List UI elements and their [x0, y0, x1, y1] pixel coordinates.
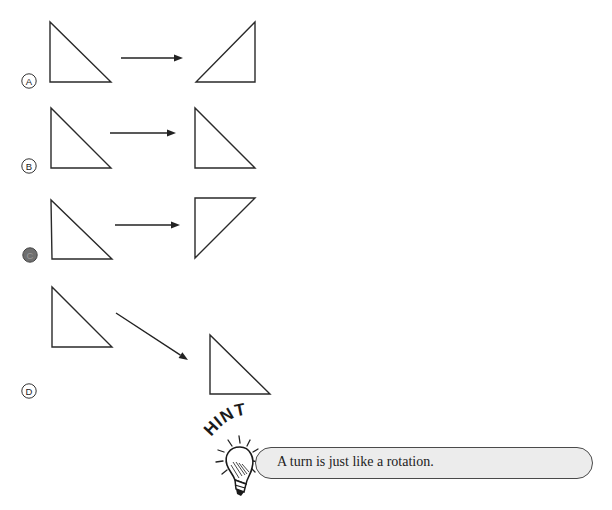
answer-bubble-c[interactable]: C — [23, 248, 37, 262]
bubble-letter: D — [26, 386, 33, 397]
answer-bubble-b[interactable]: B — [22, 159, 36, 173]
hint-text: A turn is just like a rotation. — [277, 454, 434, 470]
bubble-letter: A — [26, 76, 33, 87]
choice-c: C — [23, 198, 255, 262]
answer-bubble-a[interactable]: A — [22, 74, 36, 88]
choice-b: B — [22, 108, 255, 173]
answer-bubble-d[interactable]: D — [22, 384, 36, 398]
transformed-triangle — [195, 198, 255, 258]
transformed-triangle — [210, 335, 270, 394]
lightbulb-icon — [216, 436, 259, 496]
arrow-icon — [121, 55, 183, 62]
bubble-letter: C — [27, 250, 34, 261]
arrow-icon — [110, 130, 176, 137]
choice-d: D — [22, 287, 270, 398]
transformed-triangle — [196, 22, 255, 82]
transformation-diagram: ABCD HINT — [0, 0, 612, 510]
arrow-icon — [116, 313, 188, 360]
transformed-triangle — [195, 108, 255, 168]
original-triangle — [50, 22, 111, 82]
original-triangle — [52, 287, 112, 347]
original-triangle — [51, 200, 112, 259]
hint-label: HINT — [200, 400, 248, 440]
bubble-letter: B — [26, 161, 32, 172]
answer-choices: ABCD — [22, 22, 270, 398]
original-triangle — [51, 108, 111, 168]
choice-a: A — [22, 22, 255, 88]
arrow-icon — [115, 222, 180, 229]
